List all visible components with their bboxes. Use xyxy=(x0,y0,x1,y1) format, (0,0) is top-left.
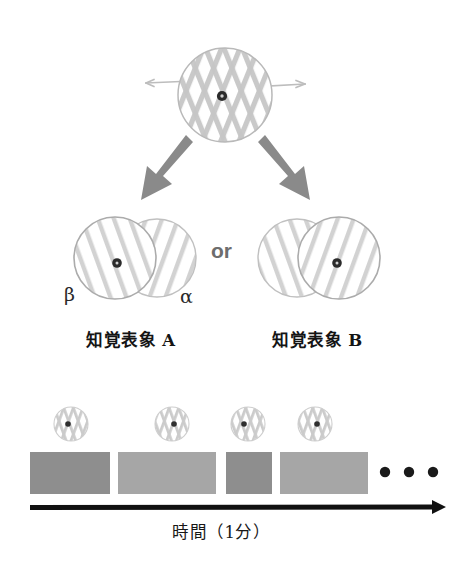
percept-a-label: 知覚表象 A xyxy=(86,327,176,351)
fixation-dot xyxy=(217,91,227,101)
time-axis-arrow xyxy=(30,500,446,514)
branch-arrow-left xyxy=(141,135,193,200)
percept-bar-2 xyxy=(118,452,216,494)
or-connector-label: or xyxy=(211,239,232,263)
percept-b-fixation-dot xyxy=(332,258,342,268)
figure-root: β α or 知覚表象 A 知覚表象 B 時間（1分） xyxy=(0,0,456,576)
timeline-thumbnails xyxy=(50,403,338,447)
percept-duration-bars xyxy=(30,452,368,494)
percept-a-fixation-dot xyxy=(112,258,122,268)
grating-label-beta: β xyxy=(64,283,75,305)
branch-arrow-right xyxy=(258,135,310,200)
time-axis-label: 時間（1分） xyxy=(172,519,271,543)
moving-plaid-stimulus xyxy=(146,40,305,160)
percept-bar-4 xyxy=(280,452,368,494)
timeline-thumbnail xyxy=(294,403,338,447)
ellipsis-dots xyxy=(380,467,438,477)
percept-bar-1 xyxy=(30,452,110,494)
percept-bar-3 xyxy=(226,452,272,494)
percept-b-illustration xyxy=(252,210,392,310)
percept-b-label: 知覚表象 B xyxy=(272,327,363,351)
timeline-thumbnail xyxy=(50,403,94,447)
timeline-thumbnail xyxy=(227,403,271,447)
timeline-thumbnail xyxy=(151,403,195,447)
grating-label-alpha: α xyxy=(180,285,193,307)
